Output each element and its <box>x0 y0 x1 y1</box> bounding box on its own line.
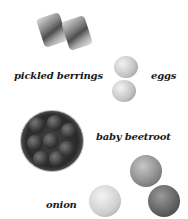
label-onion: onion <box>46 199 77 210</box>
onion-image <box>88 155 188 219</box>
pickled-herrings-image <box>35 10 105 60</box>
eggs-image <box>112 56 142 106</box>
label-eggs: eggs <box>151 70 176 81</box>
label-baby-beetroot: baby beetroot <box>96 131 171 142</box>
baby-beetroot-image <box>20 110 84 172</box>
label-pickled-herrings: pickled berrings <box>14 70 103 81</box>
